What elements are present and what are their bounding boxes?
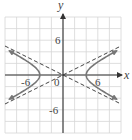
x-tick-label-neg6: -6 bbox=[21, 76, 31, 88]
y-tick-label-neg6: -6 bbox=[49, 104, 59, 116]
right-branch-upper bbox=[86, 51, 117, 75]
x-axis-label: x bbox=[123, 68, 130, 82]
right-branch-lower bbox=[86, 75, 117, 99]
hyperbola-graph: y x 0 -6 6 6 -6 bbox=[0, 0, 132, 140]
origin-label: 0 bbox=[54, 76, 60, 88]
y-axis-label: y bbox=[57, 0, 64, 12]
axes bbox=[5, 14, 122, 133]
x-tick-label-6: 6 bbox=[95, 76, 101, 88]
left-branch-upper bbox=[9, 51, 40, 75]
y-tick-label-6: 6 bbox=[55, 34, 61, 46]
